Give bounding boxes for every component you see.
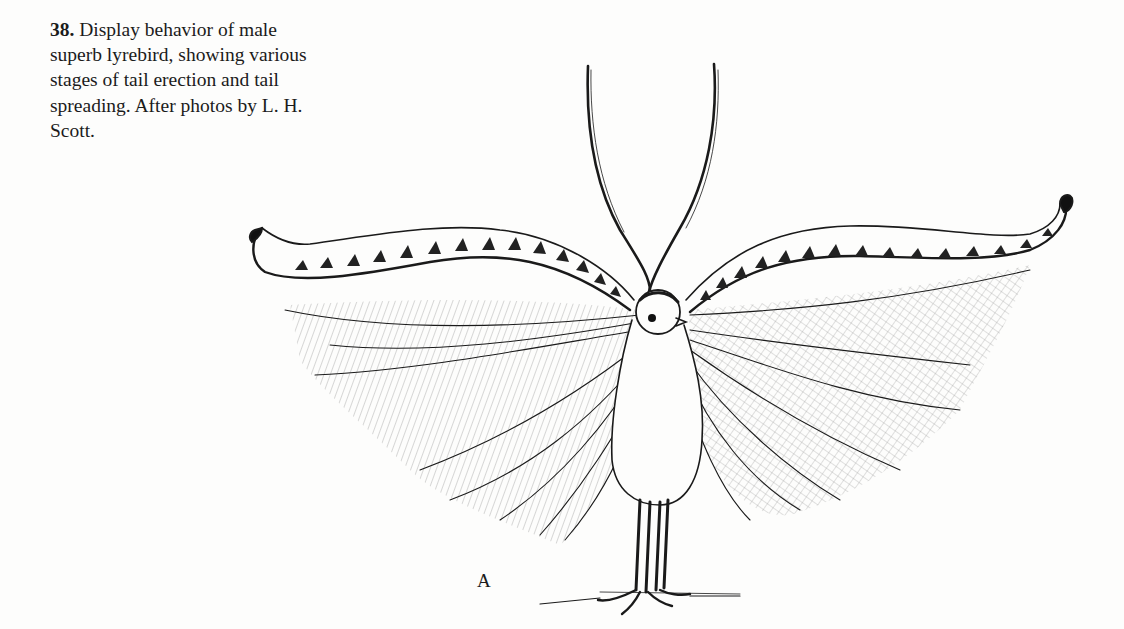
median-tail-plumes [588,64,719,295]
lyrebird-illustration [0,0,1124,629]
right-plume-crosshatch [685,265,1030,515]
book-page: 38. Display behavior of male superb lyre… [0,0,1124,629]
left-plume-barbs [290,300,640,545]
panel-label: A [477,570,491,592]
left-lyrate-feather [250,228,634,310]
